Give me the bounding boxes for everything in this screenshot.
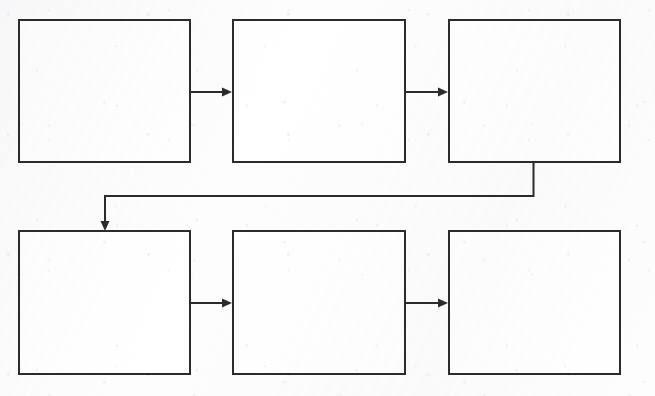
connector-2-3 bbox=[405, 88, 448, 97]
node-5-box[interactable] bbox=[233, 231, 405, 374]
node-1-box[interactable] bbox=[19, 20, 190, 162]
connector-4-5 bbox=[190, 299, 232, 308]
connector-3-4 bbox=[101, 162, 534, 231]
node-6[interactable] bbox=[449, 231, 620, 374]
connector-5-6 bbox=[405, 299, 448, 308]
node-6-box[interactable] bbox=[449, 231, 620, 374]
connector-4-5-arrow-icon bbox=[222, 299, 232, 308]
flowchart-svg bbox=[0, 0, 655, 396]
connector-1-2 bbox=[190, 88, 232, 97]
node-3[interactable] bbox=[449, 20, 620, 162]
connector-2-3-arrow-icon bbox=[438, 88, 448, 97]
node-2[interactable] bbox=[233, 20, 405, 162]
node-5[interactable] bbox=[233, 231, 405, 374]
diagram-canvas bbox=[0, 0, 655, 396]
node-4-box[interactable] bbox=[19, 231, 190, 374]
node-2-box[interactable] bbox=[233, 20, 405, 162]
node-1[interactable] bbox=[19, 20, 190, 162]
node-4[interactable] bbox=[19, 231, 190, 374]
connector-1-2-arrow-icon bbox=[222, 88, 232, 97]
connector-3-4-path bbox=[105, 162, 534, 225]
connector-5-6-arrow-icon bbox=[438, 299, 448, 308]
node-3-box[interactable] bbox=[449, 20, 620, 162]
connector-3-4-arrow-icon bbox=[101, 221, 110, 231]
